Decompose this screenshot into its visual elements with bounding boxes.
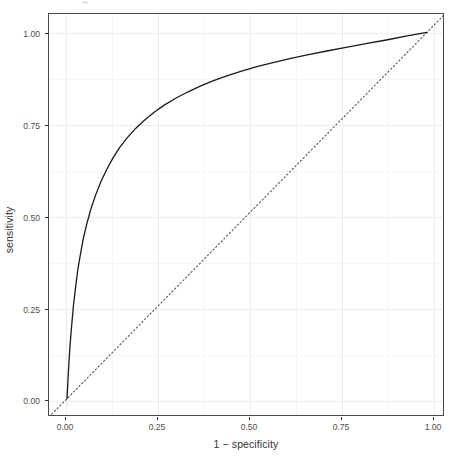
x-tick-mark-0 (65, 417, 66, 420)
y-tick-label-4: 1.00 (14, 29, 40, 39)
x-tick-label-2: 0.50 (229, 422, 269, 432)
x-tick-label-3: 0.75 (321, 422, 361, 432)
x-tick-mark-4 (433, 417, 434, 420)
top-edge-artifact (82, 1, 88, 4)
y-tick-label-1: 0.25 (14, 305, 40, 315)
plot-panel (48, 13, 444, 416)
x-tick-mark-3 (341, 417, 342, 420)
x-tick-label-1: 0.25 (137, 422, 177, 432)
y-tick-label-2: 0.50 (14, 213, 40, 223)
x-tick-mark-1 (157, 417, 158, 420)
y-tick-label-0: 0.00 (14, 396, 40, 406)
plot-canvas (49, 14, 444, 416)
x-axis-title: 1 − specificity (48, 438, 444, 450)
y-axis-title: sensitivity (0, 0, 18, 460)
y-tick-label-3: 0.75 (14, 121, 40, 131)
x-tick-mark-2 (249, 417, 250, 420)
roc-plot: sensitivity 0.00 0.25 0.50 0.75 1.00 (0, 0, 457, 460)
x-tick-label-0: 0.00 (45, 422, 85, 432)
x-tick-label-4: 1.00 (413, 422, 453, 432)
minor-gridlines (49, 14, 444, 416)
